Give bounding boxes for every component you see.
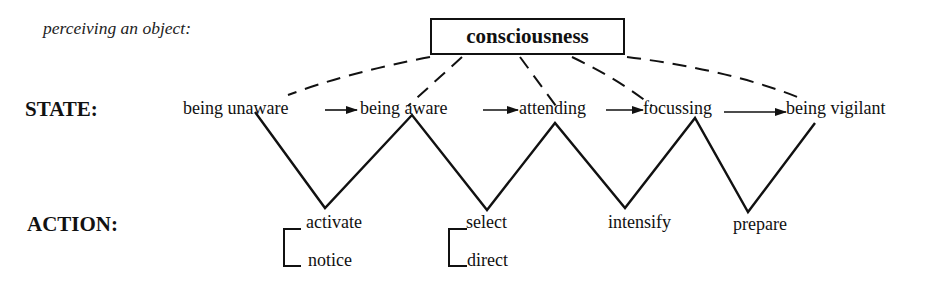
state-being-aware: being aware — [360, 98, 447, 119]
bracket-select-direct — [449, 229, 467, 266]
diagram-connectors — [0, 0, 933, 290]
action-direct: direct — [467, 250, 508, 271]
state-attending: attending — [519, 98, 586, 119]
state-being-unaware: being unaware — [183, 98, 288, 119]
dash-to-being-unaware — [288, 57, 430, 95]
action-prepare: prepare — [733, 214, 787, 235]
dash-to-being-vigilant — [627, 57, 800, 98]
action-intensify: intensify — [608, 212, 671, 233]
state-focussing: focussing — [643, 98, 712, 119]
state-being-vigilant: being vigilant — [786, 98, 885, 119]
bracket-activate-notice — [284, 229, 301, 266]
action-activate: activate — [306, 212, 362, 233]
action-select: select — [466, 212, 507, 233]
action-notice: notice — [308, 250, 352, 271]
state-action-zigzag — [255, 112, 815, 212]
